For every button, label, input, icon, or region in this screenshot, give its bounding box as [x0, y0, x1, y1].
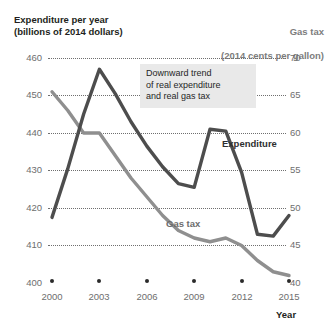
callout-annotation: Downward trend of real expenditure and r… — [140, 64, 256, 108]
plot-area — [0, 0, 332, 333]
series-label-gas-tax: Gas tax — [166, 218, 200, 229]
series-label-expenditure: Expenditure — [222, 138, 277, 149]
chart-container: Expenditure per year (billions of 2014 d… — [0, 0, 332, 333]
gas-tax-line — [52, 92, 289, 276]
